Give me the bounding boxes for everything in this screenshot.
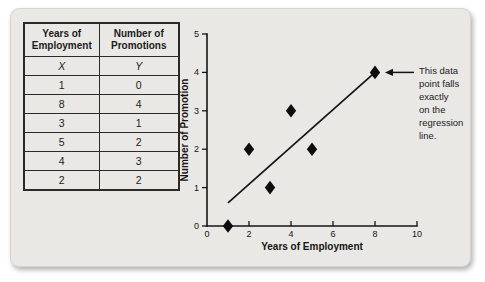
table-cell: 4 (24, 152, 99, 171)
table-cell: 4 (99, 95, 179, 114)
table-cell: 3 (24, 114, 99, 133)
table-cell: 3 (99, 152, 179, 171)
table-row: 52 (24, 133, 179, 152)
annotation-text: This data point falls exactly on the reg… (419, 64, 471, 142)
table-cell: 5 (24, 133, 99, 152)
table-cell: 1 (99, 114, 179, 133)
table-cell: 8 (24, 95, 99, 114)
table-row: 22 (24, 171, 179, 191)
variable-label-cell: X (24, 57, 99, 76)
table-cell: 2 (24, 171, 99, 191)
col-header-years-of-employment: Years of Employment (24, 23, 99, 57)
variable-label-row: XY (24, 57, 179, 76)
table-row: 84 (24, 95, 179, 114)
table-cell: 2 (99, 171, 179, 191)
variable-label-cell: Y (99, 57, 179, 76)
table-cell: 0 (99, 76, 179, 95)
data-table: Years of Employment Number of Promotions… (23, 22, 180, 191)
table-row: 10 (24, 76, 179, 95)
table-header-row: Years of Employment Number of Promotions (24, 23, 179, 57)
table-cell: 1 (24, 76, 99, 95)
figure-page: Years of Employment Number of Promotions… (0, 0, 485, 282)
table-row: 43 (24, 152, 179, 171)
table-cell: 2 (99, 133, 179, 152)
col-header-number-of-promotions: Number of Promotions (99, 23, 179, 57)
table-row: 31 (24, 114, 179, 133)
